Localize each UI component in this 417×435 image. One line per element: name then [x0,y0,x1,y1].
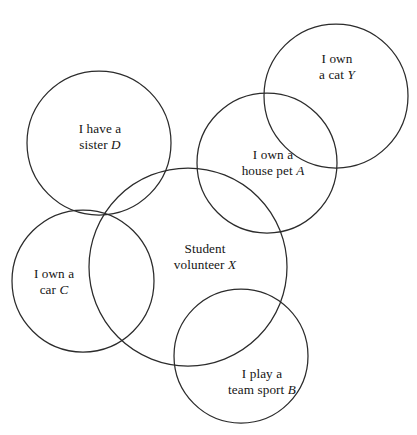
venn-diagram-canvas: I own a cat Y I own a house pet A I have… [0,0,417,435]
circle-student-volunteer-x [89,168,287,366]
circle-sister-d [27,71,171,215]
circle-team-sport-b [174,289,308,423]
venn-circles-group [0,0,417,435]
circle-house-pet-a [197,93,337,233]
circle-car-c [12,210,154,352]
